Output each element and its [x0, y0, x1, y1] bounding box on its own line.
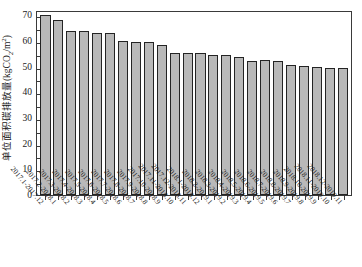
- x-axis-label-slot: 2018.4-2019.3: [233, 200, 246, 266]
- x-axis-label-slot: 2017.10-2018.9: [155, 200, 168, 266]
- x-axis-label-slot: 2017.12-2018.11: [181, 200, 194, 266]
- y-axis-tick-label: 20: [23, 140, 33, 150]
- bar-slot: [323, 12, 336, 195]
- y-axis-tick-label: 40: [23, 88, 33, 98]
- y-axis-tick-label: 60: [23, 37, 33, 47]
- x-axis-label-slot: 2018.9-2019.8: [298, 200, 311, 266]
- y-axis-title: 单位面积碳排放量(kgCO2/m2): [1, 35, 15, 161]
- bar-chart-figure: 单位面积碳排放量(kgCO2/m2) 010203040506070 2017.…: [0, 0, 362, 267]
- y-axis-title-suffix: ): [2, 35, 12, 38]
- y-axis-title-prefix: 单位面积碳排放量(kgCO: [2, 55, 12, 161]
- x-axis-label-slot: 2018.2-2019.1: [207, 200, 220, 266]
- bar-slot: [39, 12, 52, 195]
- bar-slot: [91, 12, 104, 195]
- bar-slot: [336, 12, 349, 195]
- x-axis-label-slot: 2017.7-2018.6: [116, 200, 129, 266]
- bar-slot: [78, 12, 91, 195]
- x-axis-label-slot: 2017.3-2018.2: [64, 200, 77, 266]
- y-axis-title-superscript: 2: [0, 38, 8, 42]
- x-axis-label-slot: 2017.1-2017.12: [38, 200, 51, 266]
- y-axis-tick-label: 30: [23, 114, 33, 124]
- x-axis-label-slot: 2018.11-2019.10: [324, 200, 337, 266]
- x-axis-label-slot: 2017.9-2018.8: [142, 200, 155, 266]
- y-axis-title-middle: /m: [2, 42, 12, 52]
- x-axis-label-slot: 2018.10-2019.9: [311, 200, 324, 266]
- y-axis-tick-label: 70: [23, 11, 33, 21]
- x-axis-label-slot: 2018.6-2019.5: [259, 200, 272, 266]
- x-axis-label-slot: 2017.2-2018.1: [51, 200, 64, 266]
- bar[interactable]: [325, 68, 335, 195]
- x-axis-label-slot: 2017.6-2018.5: [103, 200, 116, 266]
- x-axis-label-slot: 2018.7-2019.6: [272, 200, 285, 266]
- y-axis-tick-label: 50: [23, 63, 33, 73]
- x-axis-label-slot: 2017.5-2018.4: [90, 200, 103, 266]
- x-axis-label-slot: 2017.11-2018.10: [168, 200, 181, 266]
- bar-slot: [52, 12, 65, 195]
- x-axis-label-slot: 2018.8-2019.7: [285, 200, 298, 266]
- x-axis-label-slot: 2017.8-2018.7: [129, 200, 142, 266]
- bar-slot: [65, 12, 78, 195]
- x-axis-label-slot: 2017.4-2018.3: [77, 200, 90, 266]
- x-axis-label-slot: 2018.3-2019.2: [220, 200, 233, 266]
- x-axis-tick-labels: 2017.1-2017.122017.2-2018.12017.3-2018.2…: [36, 200, 352, 266]
- x-axis-label-slot: 2018.1-2018.12: [194, 200, 207, 266]
- bar[interactable]: [338, 68, 348, 195]
- x-axis-label-slot: 2018.12-2019.11: [337, 200, 350, 266]
- x-axis-label-slot: 2018.5-2019.4: [246, 200, 259, 266]
